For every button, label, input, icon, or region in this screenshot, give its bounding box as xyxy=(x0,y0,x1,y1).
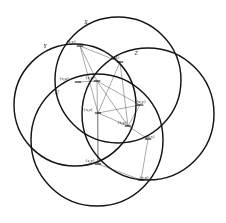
four-circle-intersection-diagram: {x,y}{y,z}{x,u}{z,u}{u,y}{x,z}{x,y}{u,x}… xyxy=(0,0,226,223)
chord-xz-mid-to-uy-right xyxy=(98,105,140,113)
circle-label-y: Y xyxy=(44,43,48,49)
circle-label-z: Z xyxy=(135,50,139,56)
chord-ux-right-to-zu-bottom xyxy=(141,139,148,180)
intersection-label-zu-left: {z,u} xyxy=(85,75,94,81)
circle-labels-group: XYZU xyxy=(44,19,139,95)
circle-label-u: U xyxy=(55,89,60,95)
intersection-label-uy-right: {u,y} xyxy=(136,99,146,105)
chord-zy-lower-to-zu-bottom xyxy=(98,164,141,180)
intersection-labels-group: {x,y}{y,z}{x,u}{z,u}{u,y}{x,z}{x,y}{u,x}… xyxy=(59,39,155,181)
circle-label-x: X xyxy=(83,19,88,25)
intersection-label-xz-mid: {x,z} xyxy=(83,107,92,113)
circle-z xyxy=(82,48,214,180)
